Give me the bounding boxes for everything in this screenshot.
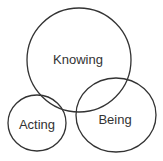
being-label: Being [98, 112, 131, 127]
acting-label: Acting [19, 117, 55, 132]
knowing-label: Knowing [53, 52, 103, 67]
venn-diagram: Knowing Acting Being [0, 0, 163, 161]
venn-diagram-svg: Knowing Acting Being [0, 0, 163, 161]
